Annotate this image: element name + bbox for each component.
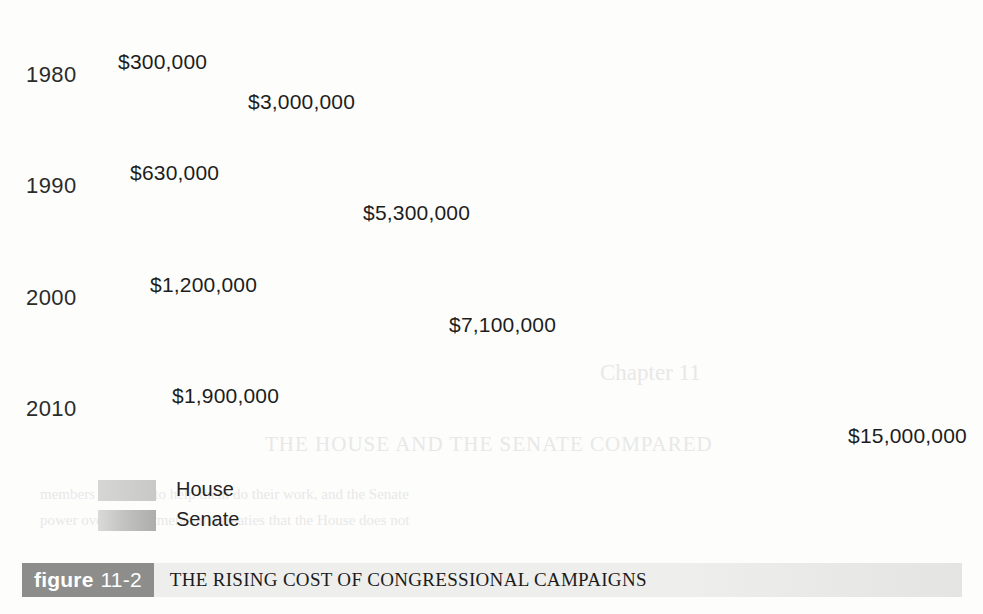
value-label-senate-1980: $3,000,000	[248, 90, 355, 114]
bar-group-2010: 2010 $1,900,000 $15,000,000	[0, 354, 983, 454]
value-label-senate-1990: $5,300,000	[363, 201, 470, 225]
bar-group-1980: 1980 $300,000 $3,000,000	[0, 20, 983, 120]
legend-label-senate: Senate	[176, 508, 239, 531]
value-label-senate-2000: $7,100,000	[449, 313, 556, 337]
legend-swatch-senate	[98, 510, 156, 531]
bar-group-2000: 2000 $1,200,000 $7,100,000	[0, 243, 983, 343]
bar-chart-plot-area: 1980 $300,000 $3,000,000 1990	[0, 0, 983, 545]
bar-house-1980[interactable]	[93, 20, 115, 52]
figure-caption-bar: figure 11-2 THE RISING COST OF CONGRESSI…	[22, 563, 962, 597]
bar-senate-1980[interactable]	[93, 64, 240, 108]
legend-item-house[interactable]: House	[98, 478, 358, 504]
bar-senate-2010[interactable]	[93, 398, 840, 442]
chart-legend: House Senate	[98, 478, 358, 538]
bar-house-1990[interactable]	[93, 131, 127, 163]
bar-senate-2000[interactable]	[93, 287, 441, 331]
year-label-2010: 2010	[26, 396, 88, 422]
year-label-1980: 1980	[26, 62, 88, 88]
figure-caption-text: THE RISING COST OF CONGRESSIONAL CAMPAIG…	[154, 563, 647, 597]
bar-senate-1990[interactable]	[93, 175, 355, 219]
year-label-1990: 1990	[26, 173, 88, 199]
figure-11-2: 1980 $300,000 $3,000,000 1990	[0, 0, 983, 614]
bar-house-2000[interactable]	[93, 243, 146, 275]
figure-tag-word: figure	[34, 568, 94, 592]
figure-tag-number: 11-2	[101, 568, 142, 592]
legend-label-house: House	[176, 478, 234, 501]
bar-house-2010[interactable]	[93, 354, 165, 386]
legend-item-senate[interactable]: Senate	[98, 508, 358, 534]
year-label-2000: 2000	[26, 285, 88, 311]
bar-group-1990: 1990 $630,000 $5,300,000	[0, 131, 983, 231]
figure-number-tag: figure 11-2	[22, 563, 154, 597]
value-label-senate-2010: $15,000,000	[848, 424, 967, 448]
legend-swatch-house	[98, 480, 156, 501]
